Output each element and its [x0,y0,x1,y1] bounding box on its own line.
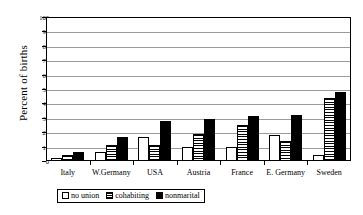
legend-label: nonmarital [165,191,200,200]
bar-no-union [182,147,193,161]
x-tick-mark [220,161,221,165]
bar-nonmarital [248,116,259,161]
bar-cohabiting [106,145,117,161]
bar-cohabiting [193,134,204,161]
legend-item: no union [62,191,99,200]
bar-group [307,17,351,161]
x-tick-mark [133,161,134,165]
x-tick-mark [264,161,265,165]
legend-swatch-icon [106,192,113,199]
bar-nonmarital [117,137,128,161]
x-tick-mark [307,161,308,165]
bar-group [264,17,308,161]
legend-label: no union [71,191,99,200]
bar-cohabiting [62,155,73,161]
bar-nonmarital [160,121,171,161]
bar-group [220,17,264,161]
x-tick-label: Sweden [307,168,351,177]
bar-cohabiting [149,145,160,161]
bar-group [133,17,177,161]
x-tick-label: E. Germany [264,168,308,177]
bar-nonmarital [335,92,346,161]
bar-chart-figure: Percent of births 0102030405060708090100… [0,0,363,215]
bar-no-union [269,135,280,161]
y-tick-mark [42,161,46,162]
x-tick-mark [90,161,91,165]
bar-cohabiting [280,141,291,161]
bar-no-union [51,158,62,161]
legend-label: cohabiting [115,191,149,200]
bar-no-union [138,137,149,161]
legend-swatch-icon [62,192,69,199]
chart-legend: no unioncohabitingnonmarital [57,189,205,203]
x-tick-label: France [220,168,264,177]
x-tick-mark [177,161,178,165]
x-tick-label: W.Germany [90,168,134,177]
bar-nonmarital [291,115,302,161]
legend-item: cohabiting [106,191,149,200]
legend-item: nonmarital [156,191,200,200]
bar-cohabiting [237,125,248,161]
bar-group [46,17,90,161]
bar-group [177,17,221,161]
x-tick-label: USA [133,168,177,177]
bar-no-union [95,152,106,161]
bar-group [90,17,134,161]
bar-no-union [226,147,237,161]
bar-nonmarital [204,119,215,161]
x-tick-label: Italy [46,168,90,177]
legend-swatch-icon [156,192,163,199]
bar-groups [46,17,351,161]
bar-nonmarital [73,152,84,161]
bar-cohabiting [324,98,335,161]
bar-no-union [313,155,324,161]
x-tick-label: Austria [177,168,221,177]
